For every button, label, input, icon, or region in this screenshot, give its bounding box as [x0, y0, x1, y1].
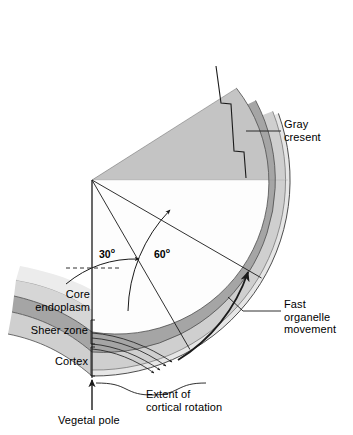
label-vegetal-pole: Vegetal pole [58, 414, 120, 427]
label-angle-30: 30o [99, 247, 115, 260]
label-angle-60: 60o [154, 247, 170, 260]
label-gray-crescent: Gray cresent [284, 118, 321, 143]
diagram-canvas: Gray cresent Fast organelle movement Cor… [0, 0, 353, 435]
label-extent-cortical-rotation: Extent of cortical rotation [146, 388, 222, 413]
angle-60-value: 60 [154, 248, 166, 260]
label-cortex: Cortex [28, 355, 88, 368]
egg-cross-section-svg [0, 0, 353, 435]
angle-30-degree: o [111, 247, 115, 254]
label-sheer-zone: Sheer zone [14, 324, 88, 337]
label-fast-organelle-movement: Fast organelle movement [284, 298, 336, 336]
angle-30-value: 30 [99, 248, 111, 260]
label-core-endoplasm: Core endoplasm [22, 288, 90, 313]
angle-60-degree: o [166, 247, 170, 254]
